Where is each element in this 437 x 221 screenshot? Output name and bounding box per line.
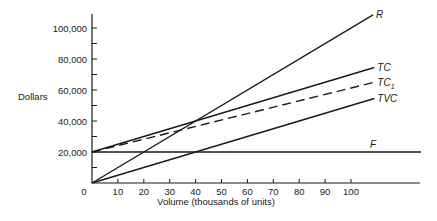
series-label-tvc: TVC	[377, 93, 398, 104]
y-tick-label: 60,000	[58, 85, 87, 96]
y-tick-label: 80,000	[58, 54, 87, 65]
series-label-f: F	[370, 139, 377, 150]
x-tick-label: 10	[113, 186, 124, 197]
series-line-tc	[92, 68, 374, 152]
series-line-r	[92, 15, 373, 183]
x-tick-label: 100	[343, 186, 359, 197]
x-tick-label: 0	[81, 186, 86, 197]
series-label-r: R	[376, 9, 383, 20]
y-tick-label: 20,000	[58, 147, 87, 158]
x-tick-label: 90	[320, 186, 331, 197]
ticks: 010203040506070809010020,00040,00060,000…	[53, 23, 359, 198]
y-tick-label: 40,000	[58, 116, 87, 127]
x-tick-label: 80	[294, 186, 305, 197]
series-label-tc: TC	[377, 62, 391, 73]
x-tick-label: 20	[139, 186, 150, 197]
series-labels: RTCTC1TVCF	[370, 9, 398, 150]
break-even-chart: 010203040506070809010020,00040,00060,000…	[0, 0, 437, 221]
y-axis-title: Dollars	[18, 91, 48, 102]
series-label-tc1: TC1	[377, 77, 394, 90]
axes	[92, 14, 420, 183]
series-line-tc1	[92, 82, 374, 152]
series-lines	[92, 15, 421, 183]
y-tick-label: 100,000	[53, 23, 87, 34]
series-line-tvc	[92, 99, 374, 183]
x-axis-title: Volume (thousands of units)	[157, 196, 275, 207]
